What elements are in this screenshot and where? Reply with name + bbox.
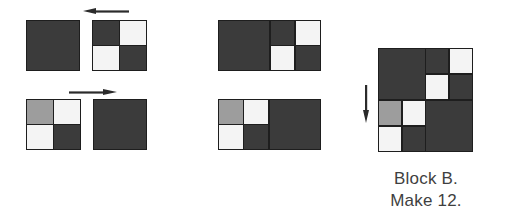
caption-line-1: Block B. [366,168,486,190]
patch-top-right [120,21,146,45]
patch-bottom-left [379,127,401,151]
patch-top-left [27,100,53,124]
joined-four-patch [271,21,320,70]
row2-joined-unit [218,99,321,150]
patch-bottom-right [296,46,320,70]
patch-top-left [93,21,119,45]
joined-solid-square [219,21,269,70]
row2-four-patch [26,99,81,150]
block-caption: Block B. Make 12. [366,168,486,212]
patch-bottom-right [244,125,268,149]
patch-bottom-right [120,46,146,70]
patch-top-left [219,100,243,124]
joined-four-patch [219,100,268,149]
row1-solid-square [26,20,80,71]
patch-top-right [403,101,425,125]
patch-bottom-right [403,127,425,151]
patch-top-right [296,21,320,45]
patch-bottom-left [93,46,119,70]
block-b-final [378,48,473,152]
patch-bottom-left [27,125,53,149]
quadrant-bottom-left-four-patch [379,101,425,151]
row1-four-patch [92,20,147,71]
patch-bottom-right [54,125,80,149]
patch-top-right [54,100,80,124]
arrow-down-icon [361,84,373,124]
arrow-left-icon [82,5,130,17]
diagram-canvas: Block B. Make 12. [0,0,512,222]
quadrant-top-right-four-patch [426,49,472,99]
patch-top-left [379,101,401,125]
patch-bottom-left [426,75,448,99]
arrow-right-icon [68,86,118,98]
patch-bottom-left [219,125,243,149]
quadrant-top-left-solid [379,49,425,99]
patch-bottom-right [450,75,472,99]
row2-solid-square [93,99,147,150]
patch-top-right [244,100,268,124]
patch-top-right [450,49,472,73]
quadrant-bottom-right-solid [426,101,472,151]
row1-joined-unit [218,20,321,71]
patch-bottom-left [271,46,295,70]
joined-solid-square [270,100,320,149]
patch-top-left [426,49,448,73]
patch-top-left [271,21,295,45]
caption-line-2: Make 12. [366,190,486,212]
